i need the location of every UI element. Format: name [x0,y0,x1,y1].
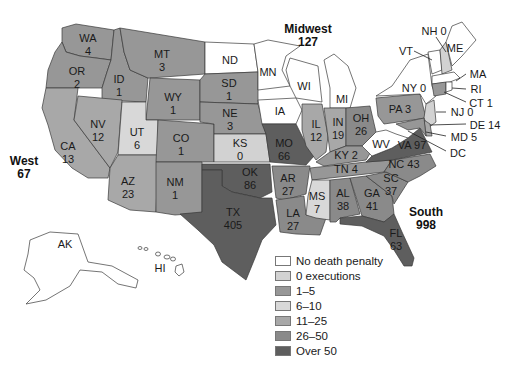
legend-item-no-death-penalty: No death penalty [275,253,383,268]
legend-item-26-50: 26–50 [275,328,383,343]
state-ct [432,82,446,96]
callout-dc: DC [450,147,466,159]
label-la: LA27 [286,207,300,232]
label-nv: NV12 [90,118,106,143]
legend: No death penalty 0 executions 1–5 6–10 1… [275,253,383,358]
label-va: VA 97 [398,139,427,151]
label-tn: TN 4 [334,163,358,175]
label-tx: TX405 [224,206,242,231]
label-nc: NC 43 [388,158,419,170]
label-pa: PA 3 [389,103,411,115]
callout-md: MD 5 [451,131,477,143]
label-mn: MN [259,66,276,78]
label-ok: OK86 [242,166,259,191]
callout-de: DE 14 [470,119,501,131]
legend-item-11-25: 11–25 [275,313,383,328]
label-hi: HI [155,262,166,274]
callout-ri: RI [471,83,482,95]
legend-item-6-10: 6–10 [275,298,383,313]
legend-item-over-50: Over 50 [275,343,383,358]
legend-swatch [275,256,291,266]
label-il: IL12 [310,118,322,143]
label-oh: OH26 [353,112,370,137]
legend-label: No death penalty [296,255,383,267]
label-ny: NY 0 [402,82,426,94]
label-ia: IA [275,105,286,117]
legend-swatch [275,331,291,341]
label-me: ME [447,42,464,54]
callout-nh: NH 0 [421,25,446,37]
callout-vt: VT [399,45,413,57]
label-wv: WV [372,138,390,150]
legend-swatch [275,271,291,281]
label-sc: SC37 [383,172,398,197]
label-ak: AK [58,238,73,250]
label-az: AZ23 [121,175,135,200]
label-fl: FL63 [390,227,403,252]
label-ky: KY 2 [334,149,358,161]
legend-label: 11–25 [296,315,327,327]
label-wi: WI [297,80,310,92]
label-nd: ND [222,54,238,66]
region-south: South998 [409,205,443,232]
legend-label: 0 executions [296,270,361,282]
legend-label: 1–5 [296,285,315,297]
callout-ma: MA [470,68,487,80]
legend-item-0-executions: 0 executions [275,268,383,283]
legend-label: Over 50 [296,345,337,357]
us-executions-map: WA4 OR2 CA13 ID1 NV12 MT3 WY1 UT6 AZ23 C… [0,0,517,372]
state-ri [446,82,452,92]
legend-swatch [275,346,291,356]
label-in: IN19 [332,116,344,141]
label-al: AL38 [336,187,349,212]
label-mi: MI [336,93,348,105]
state-nm [156,162,202,215]
state-ak [24,232,138,304]
label-ga: GA41 [364,187,381,212]
callout-nj: NJ 0 [451,106,474,118]
region-west: West67 [10,154,38,181]
legend-label: 26–50 [296,330,328,342]
legend-swatch [275,286,291,296]
legend-label: 6–10 [296,300,322,312]
legend-swatch [275,301,291,311]
label-ca: CA13 [60,140,76,165]
legend-swatch [275,316,291,326]
label-ar: AR27 [280,172,295,197]
legend-item-1-5: 1–5 [275,283,383,298]
